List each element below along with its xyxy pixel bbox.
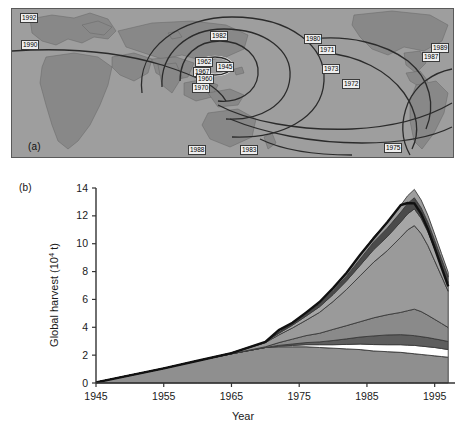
map-year-label: 1988 [188,145,206,155]
x-axis-tick-label: 1965 [220,390,244,402]
panel-a-label: (a) [28,141,41,152]
world-map-graphic [12,9,453,157]
y-axis-tick-label: 8 [82,265,88,277]
y-axis-title: Global harvest (104 t) [47,243,60,347]
chart-area-layers [96,189,448,383]
map-year-label: 1962 [195,57,213,67]
x-axis-tick-label: 1975 [288,390,312,402]
map-year-label: 1975 [384,143,402,153]
x-axis-title: Year [232,410,255,422]
map-year-label: 1971 [318,45,336,55]
map-year-label: 1990 [21,40,39,50]
x-axis-tick-label: 1945 [84,390,108,402]
y-axis-tick-label: 10 [76,237,88,249]
map-year-label: 1983 [240,145,258,155]
map-year-label: 1970 [192,83,210,93]
chart-panel: (b) 02468101214194519551965197519851995 … [0,170,463,445]
map-year-label: 1973 [322,64,340,74]
map-year-label: 1945 [216,62,234,72]
x-axis-tick-label: 1995 [423,390,447,402]
map-year-label: 1992 [20,13,38,23]
y-axis-tick-label: 6 [82,293,88,305]
x-axis-tick-label: 1985 [355,390,379,402]
y-axis-tick-label: 12 [76,209,88,221]
map-panel: (a) 1992 1990 1982 1980 1971 1989 1987 1… [11,8,454,158]
global-harvest-stacked-area-chart: 02468101214194519551965197519851995 Year… [0,170,463,445]
y-axis-tick-label: 4 [82,321,88,333]
map-year-label: 1987 [422,52,440,62]
y-axis-tick-label: 2 [82,349,88,361]
map-year-label: 1972 [342,79,360,89]
y-axis-tick-label: 0 [82,377,88,389]
map-year-label: 1980 [304,34,322,44]
x-axis-tick-label: 1955 [152,390,176,402]
map-year-label: 1982 [210,31,228,41]
y-axis-tick-label: 14 [76,182,88,194]
